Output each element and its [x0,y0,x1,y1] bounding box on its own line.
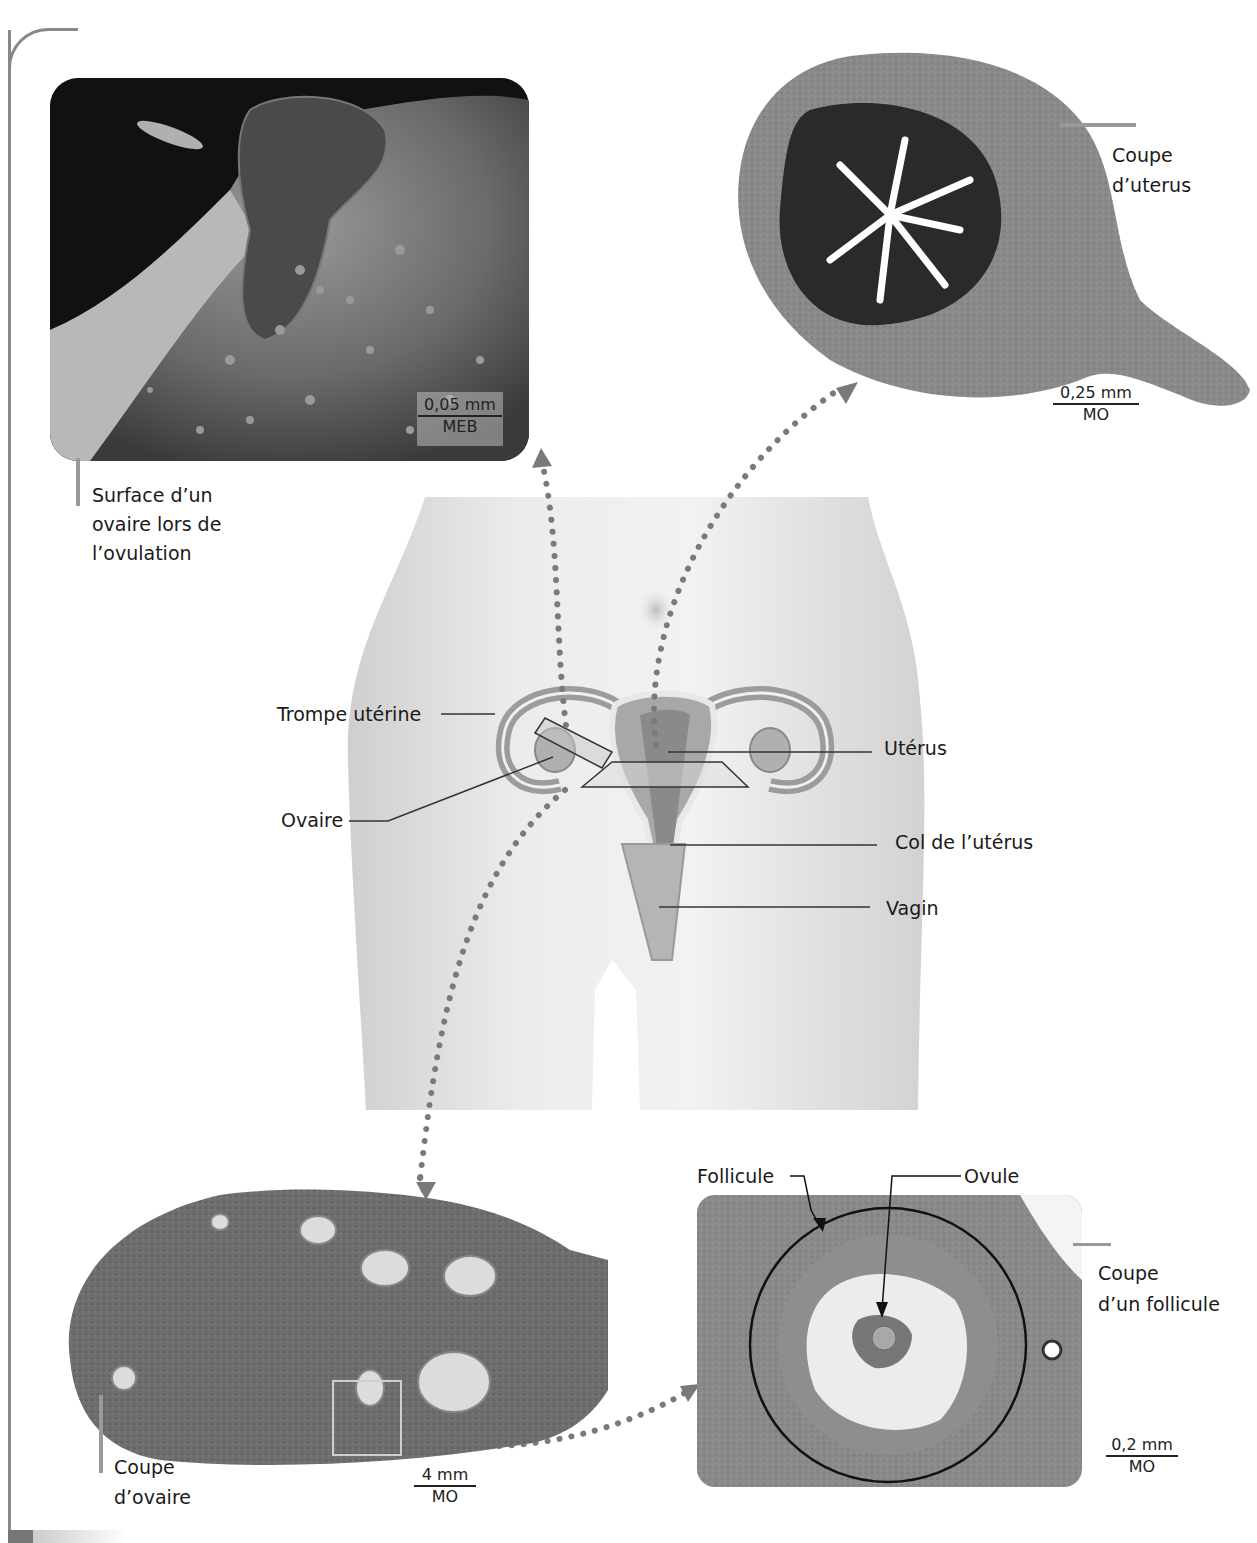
scale-value: 0,2 mm [1106,1435,1178,1457]
uterus-section-caption: Coupe d’uterus [1112,140,1191,200]
follicle-section-image [697,1195,1082,1487]
scale-value: 0,05 mm [418,395,502,417]
scale-value: 0,25 mm [1053,383,1139,405]
label-ovary: Ovaire [281,807,343,833]
caption-line: ovaire lors de [92,510,221,539]
label-vagina: Vagin [886,895,939,921]
follicle-section-caption: Coupe d’un follicule [1098,1258,1220,1320]
caption-line: Coupe [1098,1258,1220,1289]
uterus-section-image [738,53,1250,406]
scale-method: MEB [443,417,478,436]
label-uterus: Utérus [884,735,947,761]
uterus-section-scale: 0,25 mm MO [1053,383,1139,425]
scale-method: MO [1083,405,1109,424]
caption-line: d’ovaire [114,1482,191,1512]
caption-line: Coupe [1112,140,1191,170]
caption-line: Coupe [114,1452,191,1482]
label-ovule: Ovule [964,1163,1019,1189]
ovary-section-caption: Coupe d’ovaire [114,1452,191,1512]
caption-line: d’un follicule [1098,1289,1220,1320]
label-follicle: Follicule [697,1163,774,1189]
label-cervix: Col de l’utérus [895,829,1033,855]
caption-line: l’ovulation [92,539,221,568]
ovary-surface-scale: 0,05 mm MEB [418,395,502,437]
ovary-section-scale: 4 mm MO [414,1465,476,1507]
ovary-surface-caption: Surface d’un ovaire lors de l’ovulation [92,481,221,568]
diagram-canvas [0,0,1257,1543]
scale-method: MO [432,1487,458,1506]
label-fallopian-tube: Trompe utérine [277,701,421,727]
caption-line: Surface d’un [92,481,221,510]
scale-value: 4 mm [414,1465,476,1487]
ovary-section-image [69,1190,608,1465]
follicle-section-scale: 0,2 mm MO [1106,1435,1178,1477]
caption-line: d’uterus [1112,170,1191,200]
scale-method: MO [1129,1457,1155,1476]
